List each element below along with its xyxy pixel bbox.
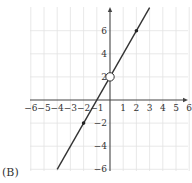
x-tick-label: −3 <box>64 103 78 113</box>
y-tick-label: −6 <box>94 164 108 174</box>
x-tick-label: 1 <box>120 103 126 113</box>
x-axis-arrow <box>183 98 188 102</box>
x-tick-label: 4 <box>160 103 166 113</box>
y-tick-label: −4 <box>94 141 108 151</box>
x-tick-label: −4 <box>51 103 65 113</box>
x-tick-label: 5 <box>173 103 179 113</box>
x-tick-label: −2 <box>77 103 90 113</box>
x-tick-label: −6 <box>24 103 38 113</box>
x-tick-label: 2 <box>134 103 140 113</box>
x-tick-label: 3 <box>147 103 153 113</box>
y-axis-arrow <box>108 7 112 12</box>
filled-point <box>82 121 86 125</box>
chart: −6−5−4−3−2−1123456−6−4−2246 <box>0 0 192 183</box>
y-tick-label: 4 <box>101 49 107 59</box>
option-label: (B) <box>2 166 19 179</box>
filled-point <box>135 29 139 33</box>
x-tick-label: 6 <box>186 103 192 113</box>
open-point <box>106 73 114 81</box>
x-tick-label: −5 <box>37 103 51 113</box>
y-tick-label: −2 <box>94 118 107 128</box>
y-tick-label: 6 <box>101 26 107 36</box>
